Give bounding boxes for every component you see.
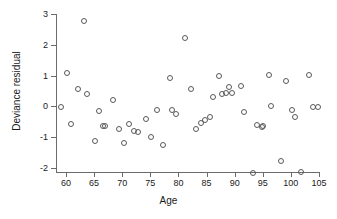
data-point	[160, 142, 166, 148]
data-point	[135, 129, 141, 135]
data-point	[188, 86, 194, 92]
data-point	[121, 140, 127, 146]
data-point	[193, 126, 199, 132]
data-point	[154, 107, 160, 113]
data-point	[110, 97, 116, 103]
data-point	[182, 35, 188, 41]
y-tick-label: 3	[43, 10, 48, 19]
plot-data-area	[56, 8, 324, 172]
y-axis-title: Deviance residual	[12, 36, 22, 146]
data-point	[102, 123, 108, 129]
data-point	[126, 121, 132, 127]
x-tick-label: 85	[195, 179, 219, 188]
data-point	[250, 170, 256, 176]
data-point	[289, 107, 295, 113]
x-tick-mark	[263, 172, 264, 177]
x-tick-mark	[235, 172, 236, 177]
y-tick-label: 0	[43, 102, 48, 111]
data-point	[210, 94, 216, 100]
data-point	[81, 18, 87, 24]
data-point	[306, 72, 312, 78]
data-point	[292, 114, 298, 120]
data-point	[278, 158, 284, 164]
x-tick-label: 105	[307, 179, 331, 188]
x-tick-label: 95	[251, 179, 275, 188]
x-tick-label: 90	[223, 179, 247, 188]
data-point	[68, 121, 74, 127]
data-point	[116, 126, 122, 132]
data-point	[283, 78, 289, 84]
data-point	[143, 116, 149, 122]
data-point	[315, 104, 321, 110]
y-tick-label: 1	[43, 72, 48, 81]
x-tick-label: 65	[82, 179, 106, 188]
data-point	[84, 91, 90, 97]
data-point	[58, 104, 64, 110]
data-point	[96, 108, 102, 114]
x-axis-line	[56, 172, 320, 173]
x-tick-mark	[291, 172, 292, 177]
x-tick-mark	[66, 172, 67, 177]
x-tick-label: 75	[138, 179, 162, 188]
data-point	[173, 111, 179, 117]
data-point	[266, 72, 272, 78]
data-point	[92, 138, 98, 144]
data-point	[260, 123, 266, 129]
x-tick-mark	[207, 172, 208, 177]
data-point	[148, 134, 154, 140]
x-axis-title: Age	[0, 196, 337, 206]
data-point	[64, 70, 70, 76]
x-tick-label: 80	[166, 179, 190, 188]
x-tick-label: 70	[110, 179, 134, 188]
data-point	[241, 109, 247, 115]
data-point	[216, 73, 222, 79]
x-tick-label: 60	[54, 179, 78, 188]
scatter-plot-figure: -2-10123 6065707580859095100105 Deviance…	[0, 0, 337, 219]
data-point	[167, 75, 173, 81]
data-point	[229, 90, 235, 96]
y-tick-label: -1	[40, 133, 48, 142]
data-point	[298, 169, 304, 175]
data-point	[223, 90, 229, 96]
data-point	[226, 84, 232, 90]
x-tick-mark	[122, 172, 123, 177]
x-tick-mark	[94, 172, 95, 177]
x-tick-mark	[178, 172, 179, 177]
x-tick-mark	[319, 172, 320, 177]
x-tick-mark	[150, 172, 151, 177]
data-point	[268, 103, 274, 109]
y-tick-label: 2	[43, 41, 48, 50]
data-point	[207, 114, 213, 120]
data-point	[75, 86, 81, 92]
x-tick-label: 100	[279, 179, 303, 188]
data-point	[238, 83, 244, 89]
y-tick-label: -2	[40, 164, 48, 173]
